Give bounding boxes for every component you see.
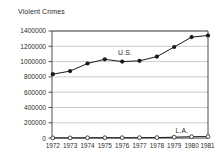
data-point-la-1978 <box>155 136 159 140</box>
data-point-la-1974 <box>86 136 90 140</box>
xtick-label-1975: 1975 <box>98 142 113 149</box>
gridlines <box>52 31 208 123</box>
ytick-label-200000: 200000 <box>24 119 46 126</box>
data-point-us-1976 <box>120 60 124 64</box>
data-point-us-1980 <box>190 35 194 39</box>
data-point-us-1981 <box>206 33 210 37</box>
xtick-label-1972: 1972 <box>46 142 61 149</box>
violent-crimes-line-chart: 1400000 1200000 1000000 800000 600000 40… <box>0 0 221 165</box>
chart-screenshot: Violent Crimes <box>0 0 221 165</box>
axis-frame <box>52 31 208 138</box>
ytick-label-400000: 400000 <box>24 104 46 111</box>
data-point-us-1973 <box>68 69 72 73</box>
data-point-la-1979 <box>172 135 176 139</box>
xtick-label-1976: 1976 <box>115 142 130 149</box>
y-axis-tick-labels: 1400000 1200000 1000000 800000 600000 40… <box>20 27 46 141</box>
series-label-us: U.S. <box>118 49 132 56</box>
xtick-label-1980: 1980 <box>184 142 199 149</box>
data-point-us-1974 <box>85 61 89 65</box>
xtick-label-1978: 1978 <box>150 142 165 149</box>
data-point-la-1972 <box>51 136 55 140</box>
ytick-label-1200000: 1200000 <box>20 43 46 50</box>
data-point-la-1973 <box>68 136 72 140</box>
data-point-la-1981 <box>206 135 210 139</box>
data-point-la-1980 <box>190 135 194 139</box>
x-axis-tick-labels: 1972 1973 1974 1975 1976 1977 1978 1979 … <box>46 142 215 149</box>
y-axis-ticks <box>49 31 53 138</box>
series-label-la: L.A. <box>176 127 189 134</box>
xtick-label-1974: 1974 <box>80 142 95 149</box>
xtick-label-1977: 1977 <box>132 142 147 149</box>
data-point-us-1979 <box>172 45 176 49</box>
data-point-us-1975 <box>103 57 107 61</box>
ytick-label-1400000: 1400000 <box>20 27 46 34</box>
ytick-label-800000: 800000 <box>24 73 46 80</box>
data-point-la-1976 <box>120 136 124 140</box>
data-point-us-1978 <box>155 55 159 59</box>
ytick-label-1000000: 1000000 <box>20 58 46 65</box>
ytick-label-600000: 600000 <box>24 89 46 96</box>
ytick-label-0: 0 <box>42 135 46 142</box>
data-point-us-1972 <box>51 72 55 76</box>
xtick-label-1973: 1973 <box>63 142 78 149</box>
data-point-la-1977 <box>138 136 142 140</box>
data-point-la-1975 <box>103 136 107 140</box>
data-point-us-1977 <box>137 59 141 63</box>
xtick-label-1981: 1981 <box>200 142 215 149</box>
xtick-label-1979: 1979 <box>167 142 182 149</box>
